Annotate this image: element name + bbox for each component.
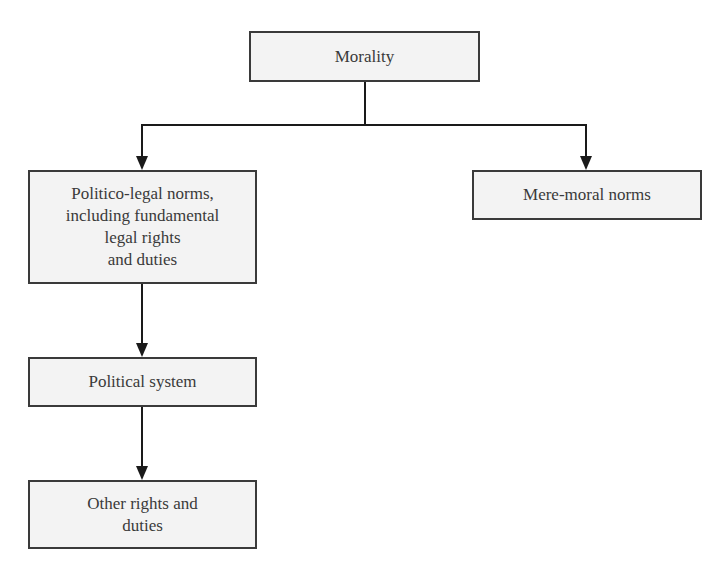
node-politico-legal-norms: Politico-legal norms, including fundamen… [28, 170, 257, 284]
node-politico-legal-norms-label: Politico-legal norms, including fundamen… [66, 183, 219, 271]
node-other-rights-and-duties-label: Other rights and duties [87, 493, 197, 537]
arrow-politico-legal-icon [136, 156, 148, 170]
node-political-system-label: Political system [88, 371, 196, 393]
arrow-political-system-icon [136, 343, 148, 357]
node-mere-moral-norms-label: Mere-moral norms [523, 184, 651, 206]
node-political-system: Political system [28, 357, 257, 407]
node-other-rights-and-duties: Other rights and duties [28, 480, 257, 549]
node-mere-moral-norms: Mere-moral norms [472, 170, 702, 220]
arrow-mere-moral-icon [580, 156, 592, 170]
arrow-other-rights-icon [136, 466, 148, 480]
node-morality: Morality [249, 31, 480, 82]
node-morality-label: Morality [335, 46, 395, 68]
